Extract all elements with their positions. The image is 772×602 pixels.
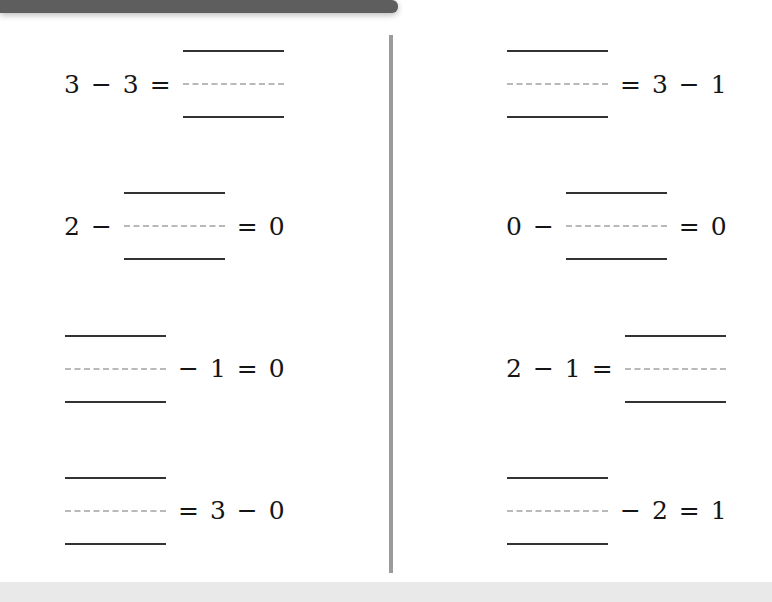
worksheet-column-right: =3−10−=02−1=−2=1 — [386, 13, 772, 582]
number-term: 0 — [267, 214, 287, 239]
bottom-accent-bar — [0, 582, 772, 602]
solid-writing-line — [65, 401, 166, 403]
dashed-guide-line — [65, 510, 166, 512]
minus-operator: − — [611, 498, 650, 523]
number-term: 1 — [709, 498, 729, 523]
number-term: 1 — [208, 356, 228, 381]
solid-writing-line — [507, 116, 608, 118]
dashed-guide-line — [507, 510, 608, 512]
equation-right-2: 0−=0 — [504, 192, 729, 260]
problem-row: 0−=0 — [504, 155, 754, 297]
problem-row: −1=0 — [62, 298, 368, 440]
dashed-guide-line — [124, 225, 225, 227]
equals-operator: = — [670, 498, 709, 523]
equation-right-1: =3−1 — [504, 50, 729, 118]
number-term: 1 — [563, 356, 583, 381]
solid-writing-line — [65, 543, 166, 545]
equals-operator: = — [141, 72, 180, 97]
problem-row: 2−=0 — [62, 155, 368, 297]
number-term: 3 — [650, 72, 670, 97]
equation-right-4: −2=1 — [504, 477, 729, 545]
number-term: 3 — [121, 72, 141, 97]
number-term: 1 — [709, 72, 729, 97]
dashed-guide-line — [65, 368, 166, 370]
problem-row: =3−1 — [504, 13, 754, 155]
equation-left-2: 2−=0 — [62, 192, 287, 260]
problem-row: 2−1= — [504, 298, 754, 440]
answer-blank[interactable] — [566, 192, 667, 260]
equation-left-1: 3−3= — [62, 50, 287, 118]
equals-operator: = — [670, 214, 709, 239]
equals-operator: = — [228, 356, 267, 381]
top-accent-bar — [0, 0, 398, 13]
minus-operator: − — [82, 72, 121, 97]
solid-writing-line — [507, 477, 608, 479]
dashed-guide-line — [566, 225, 667, 227]
solid-writing-line — [625, 401, 726, 403]
answer-blank[interactable] — [124, 192, 225, 260]
minus-operator: − — [228, 498, 267, 523]
answer-blank[interactable] — [65, 335, 166, 403]
minus-operator: − — [670, 72, 709, 97]
number-term: 0 — [504, 214, 524, 239]
number-term: 2 — [650, 498, 670, 523]
problem-row: =3−0 — [62, 440, 368, 582]
number-term: 2 — [62, 214, 82, 239]
solid-writing-line — [183, 50, 284, 52]
worksheet-column-left: 3−3=2−=0−1=0=3−0 — [0, 13, 386, 582]
equation-left-4: =3−0 — [62, 477, 287, 545]
solid-writing-line — [507, 543, 608, 545]
answer-blank[interactable] — [507, 477, 608, 545]
equation-left-3: −1=0 — [62, 335, 287, 403]
equals-operator: = — [611, 72, 650, 97]
answer-blank[interactable] — [625, 335, 726, 403]
answer-blank[interactable] — [65, 477, 166, 545]
minus-operator: − — [524, 214, 563, 239]
solid-writing-line — [183, 116, 284, 118]
solid-writing-line — [124, 192, 225, 194]
equals-operator: = — [583, 356, 622, 381]
number-term: 0 — [709, 214, 729, 239]
worksheet-grid: 3−3=2−=0−1=0=3−0 =3−10−=02−1=−2=1 — [0, 13, 772, 582]
problem-row: −2=1 — [504, 440, 754, 582]
dashed-guide-line — [183, 83, 284, 85]
solid-writing-line — [65, 335, 166, 337]
minus-operator: − — [524, 356, 563, 381]
solid-writing-line — [566, 192, 667, 194]
solid-writing-line — [124, 258, 225, 260]
answer-blank[interactable] — [183, 50, 284, 118]
number-term: 3 — [62, 72, 82, 97]
equals-operator: = — [228, 214, 267, 239]
solid-writing-line — [65, 477, 166, 479]
number-term: 0 — [267, 356, 287, 381]
dashed-guide-line — [625, 368, 726, 370]
solid-writing-line — [625, 335, 726, 337]
equals-operator: = — [169, 498, 208, 523]
solid-writing-line — [566, 258, 667, 260]
number-term: 3 — [208, 498, 228, 523]
minus-operator: − — [169, 356, 208, 381]
number-term: 0 — [267, 498, 287, 523]
problem-row: 3−3= — [62, 13, 368, 155]
equation-right-3: 2−1= — [504, 335, 729, 403]
minus-operator: − — [82, 214, 121, 239]
solid-writing-line — [507, 50, 608, 52]
dashed-guide-line — [507, 83, 608, 85]
number-term: 2 — [504, 356, 524, 381]
answer-blank[interactable] — [507, 50, 608, 118]
